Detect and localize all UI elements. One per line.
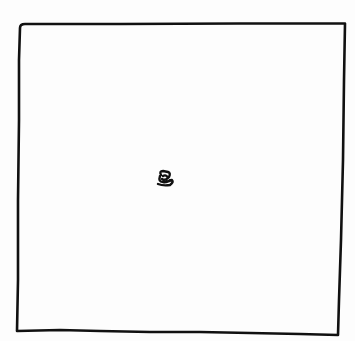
center-scribble: [158, 171, 173, 185]
sketch-canvas: [0, 0, 355, 341]
hand-drawn-square: [17, 24, 345, 336]
